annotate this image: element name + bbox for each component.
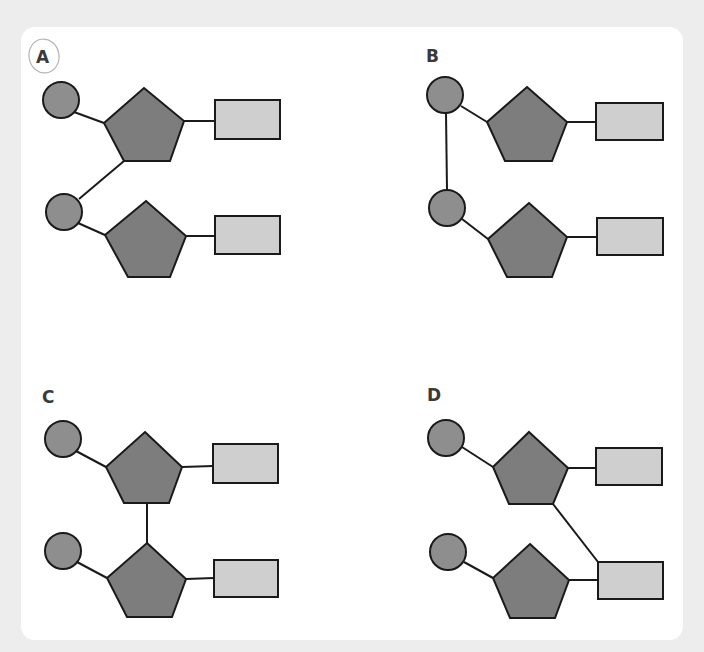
bond-sugar-base bbox=[182, 466, 213, 467]
option-b-label: B bbox=[426, 46, 439, 66]
sugar-pentagon bbox=[106, 432, 182, 503]
base-rectangle bbox=[215, 216, 280, 254]
bond-sugar-to-lower-phosphate bbox=[79, 161, 124, 199]
bond-phosphate-sugar bbox=[74, 112, 104, 123]
phosphate-circle bbox=[428, 420, 464, 456]
phosphate-circle bbox=[46, 194, 82, 230]
base-rectangle bbox=[215, 100, 280, 139]
option-d[interactable]: D bbox=[427, 385, 663, 618]
bond-sugar-base bbox=[186, 578, 214, 579]
sugar-pentagon bbox=[493, 432, 568, 504]
base-rectangle bbox=[213, 444, 278, 483]
option-b[interactable]: B bbox=[426, 46, 663, 277]
phosphate-circle bbox=[429, 190, 465, 226]
bond-sugar-to-lower-base bbox=[553, 504, 598, 562]
bond-phosphate-sugar bbox=[464, 562, 493, 578]
option-a-label: A bbox=[36, 47, 50, 67]
phosphate-circle bbox=[427, 77, 463, 113]
base-rectangle bbox=[596, 103, 663, 140]
base-rectangle bbox=[214, 560, 278, 597]
bond-phosphate-sugar bbox=[76, 451, 106, 467]
bond-phosphate-sugar bbox=[77, 562, 107, 578]
option-a[interactable]: A bbox=[26, 37, 280, 277]
nucleotide-options-diagram: A B C bbox=[0, 0, 704, 652]
phosphate-circle bbox=[45, 533, 81, 569]
option-c[interactable]: C bbox=[42, 387, 278, 617]
base-rectangle bbox=[598, 562, 663, 599]
sugar-pentagon bbox=[104, 88, 184, 161]
phosphate-circle bbox=[43, 82, 79, 118]
base-rectangle bbox=[596, 448, 662, 485]
bond-phosphate-sugar bbox=[462, 219, 488, 239]
option-d-label: D bbox=[427, 385, 441, 405]
phosphate-circle bbox=[430, 534, 466, 570]
option-c-label: C bbox=[42, 387, 54, 407]
bond-phosphate-sugar bbox=[461, 106, 487, 122]
bond-phosphate-to-phosphate bbox=[446, 113, 447, 190]
bond-phosphate-sugar bbox=[462, 447, 493, 467]
sugar-pentagon bbox=[493, 544, 569, 618]
sugar-pentagon bbox=[107, 543, 186, 617]
sugar-pentagon bbox=[487, 87, 567, 161]
sugar-pentagon bbox=[488, 203, 567, 277]
phosphate-circle bbox=[45, 421, 81, 457]
base-rectangle bbox=[597, 218, 663, 255]
bond-phosphate-sugar bbox=[78, 223, 105, 235]
sugar-pentagon bbox=[105, 201, 186, 277]
